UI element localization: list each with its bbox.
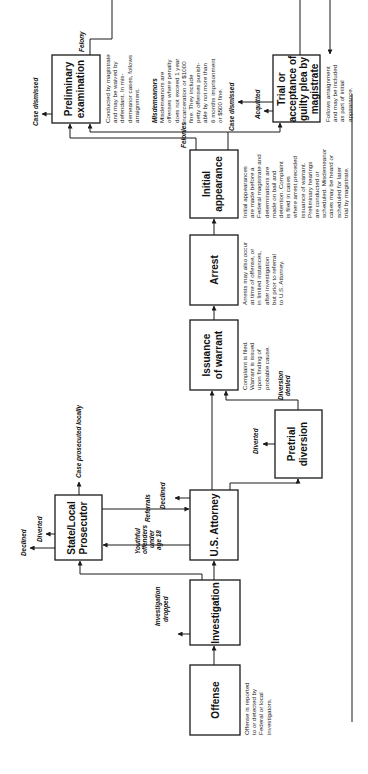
label-felony: Felony xyxy=(78,31,86,52)
note-line: issuance of warrant. xyxy=(299,162,306,218)
arrow-misdemeanors-trial xyxy=(228,123,280,132)
note-line: Offense is reported xyxy=(243,682,250,735)
note-line: determinations are xyxy=(263,166,270,218)
note-line: and may be waived by xyxy=(111,61,118,123)
note-misdemeanors: MisdemeanorsMisdemeanors areoffenses whe… xyxy=(151,58,223,123)
label-referrals: Referrals xyxy=(144,494,151,522)
note-line: fine. They include xyxy=(187,74,194,123)
note-line: where arrest preceded xyxy=(291,156,298,219)
note-line: but prior to referral xyxy=(270,254,277,305)
prelim-title-1: Preliminary xyxy=(63,61,74,116)
note-line: appearance. xyxy=(346,87,353,122)
note-line: or $500 fine. xyxy=(216,88,223,123)
criminal-process-flowchart: Offense Investigation U.S. Attorney Stat… xyxy=(0,0,368,774)
note-line: investigators. xyxy=(265,698,272,735)
note-line: Federal or local xyxy=(257,692,264,735)
box-us-attorney: U.S. Attorney xyxy=(190,490,238,560)
label-youthful-2: offenders xyxy=(141,525,148,554)
box-preliminary-examination: Preliminary examination xyxy=(52,55,100,123)
note-line: detention. Complaint xyxy=(277,161,284,218)
pretrial-title-2: diversion xyxy=(298,422,309,466)
trial-title-4: magistrate xyxy=(309,63,320,114)
note-heading: Misdemeanors xyxy=(151,78,158,123)
note-line: after investigation xyxy=(263,256,270,305)
arrow-investigation-state xyxy=(80,561,202,580)
note-line: Misdemeanors are xyxy=(158,71,165,123)
flowchart-stage: Offense Investigation U.S. Attorney Stat… xyxy=(0,0,368,774)
box-trial-or-guilty-plea: Trial or acceptance of guilty plea by ma… xyxy=(273,55,320,122)
note-issuance-of-warrant: Complaint is filed.Warrant is issuedupon… xyxy=(241,341,270,390)
note-line: made on bail and xyxy=(270,170,277,218)
note-line: Federal magistrate and xyxy=(255,154,262,218)
box-pretrial-diversion: Pretrial diversion xyxy=(275,410,322,478)
note-line: demeanor cases, follows xyxy=(126,55,133,123)
label-state-declined: Declined xyxy=(20,528,27,556)
label-youthful-3: under xyxy=(148,530,155,548)
trial-title-3: guilty plea by xyxy=(298,57,309,121)
note-line: arraignment. xyxy=(133,88,140,123)
label-youthful-1: Youthful xyxy=(134,528,141,554)
note-line: in limited instances, xyxy=(255,251,262,305)
note-line: to or detected by xyxy=(250,688,257,735)
box-arrest: Arrest xyxy=(190,235,238,305)
label-diversion-denied-1: Diversion xyxy=(277,371,284,400)
note-line: as part of initial xyxy=(338,80,345,122)
label-investigation-dropped-2: dropped xyxy=(162,595,170,622)
label-pretrial-diverted: Diverted xyxy=(252,427,259,454)
note-preliminary-examination: Conducted by magistrateand may be waived… xyxy=(104,54,140,123)
arrow-usa-pretrial xyxy=(230,479,298,490)
label-investigation-dropped-1: Investigation xyxy=(154,586,162,626)
note-line: is filed in cases xyxy=(284,176,291,218)
note-line: Arrests may also occur xyxy=(241,242,248,305)
initial-title-1: Initial xyxy=(201,171,212,197)
label-trial-case-dismissed: Case dismissed xyxy=(228,82,235,131)
note-line: scheduled for later xyxy=(335,167,342,218)
note-line: Follows arraignment xyxy=(324,66,331,122)
arrow-felonies xyxy=(70,124,196,150)
state-local-title-1: State/Local xyxy=(66,501,77,555)
note-line: at time of offense, or xyxy=(248,249,255,305)
note-line: defendant. In mis- xyxy=(118,73,125,123)
note-arrest: Arrests may also occurat time of offense… xyxy=(241,242,284,305)
label-acquitted: Acquitted xyxy=(254,88,262,120)
label-diversion-denied-2: denied xyxy=(284,374,291,396)
warrant-title-1: Issuance xyxy=(201,333,212,376)
note-line: are conducted or xyxy=(313,172,320,218)
initial-title-2: appearance xyxy=(213,156,224,212)
label-felonies: Felonies xyxy=(180,122,187,148)
warrant-title-2: of warrant xyxy=(213,330,224,379)
box-state-local-prosecutor: State/Local Prosecutor xyxy=(55,495,102,560)
prelim-title-2: examination xyxy=(75,60,86,118)
label-state-diverted: Diverted xyxy=(36,515,43,542)
note-line: petty offenses punish- xyxy=(194,63,201,123)
trial-title-1: Trial or xyxy=(276,72,287,105)
note-line: 6 months imprisonment xyxy=(209,58,216,123)
label-case-prosecuted-locally: Case prosecuted locally xyxy=(75,404,83,478)
arrow-felony-out xyxy=(90,0,112,55)
arrow-misdemeanors-prelim xyxy=(90,124,228,150)
state-local-title-2: Prosecutor xyxy=(78,501,89,554)
note-line: Preliminary hearings xyxy=(306,162,313,218)
note-line: Conducted by magistrate xyxy=(104,54,111,123)
note-line: offenses where penalty xyxy=(165,59,172,123)
note-trial: Follows arraignmentand may be includedas… xyxy=(324,64,353,122)
box-investigation: Investigation xyxy=(190,580,240,645)
note-line: are made before a xyxy=(248,167,255,218)
note-line: cases may be heard or xyxy=(327,155,334,218)
note-line: trial by magistrate. xyxy=(342,167,349,218)
note-line: able by not more than xyxy=(201,63,208,123)
note-offense: Offense is reportedto or detected byFede… xyxy=(243,682,272,735)
note-line: incarceration or $1000 xyxy=(180,61,187,123)
box-offense: Offense xyxy=(190,665,240,735)
note-line: upon finding of xyxy=(255,349,262,390)
trial-title-2: acceptance of xyxy=(287,55,298,122)
note-line: probable cause. xyxy=(263,346,270,390)
offense-title: Offense xyxy=(210,681,221,719)
note-line: does not exceed 1 year xyxy=(173,59,180,123)
note-line: Complaint is filed. xyxy=(241,341,248,390)
label-prelim-case-dismissed: Case dismissed xyxy=(32,77,39,126)
note-line: to U.S. Attorney. xyxy=(277,260,284,305)
note-line: scheduled. Misdemeanor xyxy=(320,149,327,218)
pretrial-title-1: Pretrial xyxy=(286,427,297,462)
box-initial-appearance: Initial appearance xyxy=(190,150,238,218)
